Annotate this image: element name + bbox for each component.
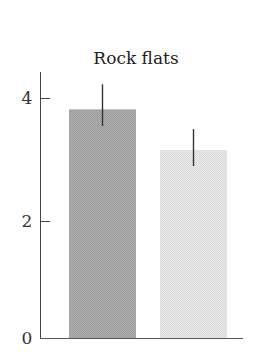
bar-2 xyxy=(160,150,227,338)
y-tick-label-4: 4 xyxy=(22,88,33,108)
y-ticks-group: 024 xyxy=(22,88,50,348)
bars-group xyxy=(69,109,227,338)
chart-title: Rock flats xyxy=(93,48,178,68)
bar-1 xyxy=(69,109,136,338)
y-tick-label-0: 0 xyxy=(22,328,33,348)
bar-chart: Rock flats 024 xyxy=(0,0,261,357)
y-tick-label-2: 2 xyxy=(22,211,33,231)
